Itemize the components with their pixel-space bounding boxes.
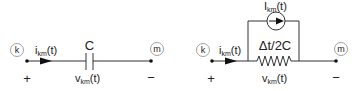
current-label: ikm(t): [35, 44, 57, 57]
node-k-label: k: [197, 44, 210, 57]
node-k-dot: [25, 59, 29, 63]
node-m-dot: [334, 59, 338, 63]
node-m-label: m: [335, 43, 348, 56]
circuit-diagram: k ikm(t) C m vkm(t) + − k: [0, 0, 362, 91]
node-m-label: m: [151, 43, 164, 56]
polarity-minus: −: [332, 70, 340, 85]
node-k-label: k: [11, 44, 24, 57]
node-k-text: k: [201, 45, 206, 55]
node-k-text: k: [15, 45, 20, 55]
left-circuit-capacitor: k ikm(t) C m vkm(t) + −: [11, 38, 164, 86]
current-arrow-icon: [40, 58, 52, 65]
polarity-plus: +: [23, 71, 31, 86]
node-m-dot: [149, 59, 153, 63]
capacitor-label: C: [85, 38, 94, 53]
polarity-plus: +: [207, 71, 215, 86]
current-label: ikm(t): [219, 44, 241, 57]
current-arrow-icon: [225, 58, 237, 65]
current-source-icon: [267, 12, 285, 30]
voltage-label: vkm(t): [262, 72, 287, 85]
node-k-dot: [210, 59, 214, 63]
voltage-label: vkm(t): [75, 72, 100, 85]
resistor-icon: [248, 56, 299, 66]
node-m-text: m: [337, 44, 345, 54]
current-source-label: Ikm(t): [264, 0, 287, 13]
polarity-minus: −: [147, 70, 155, 85]
resistor-label: Δt/2C: [259, 38, 292, 53]
node-m-text: m: [153, 44, 161, 54]
right-circuit-companion-model: k ikm(t) Ikm(t) Δt/2C m: [197, 0, 348, 86]
